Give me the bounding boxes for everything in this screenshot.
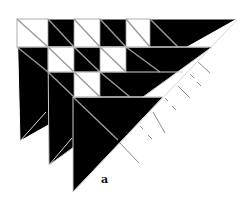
figure-caption: a [101,174,108,185]
nested-triangles-figure [0,0,246,205]
